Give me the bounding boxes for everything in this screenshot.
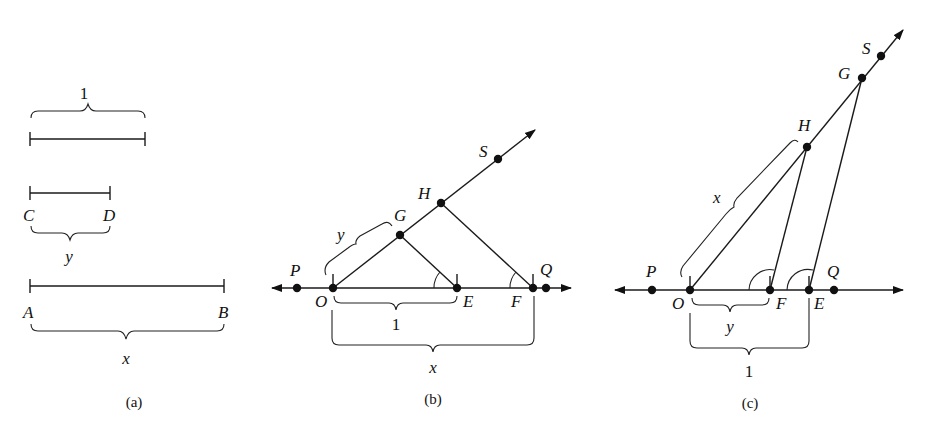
point-s <box>877 52 885 60</box>
unit-label: 1 <box>80 84 89 103</box>
point-s <box>494 155 502 163</box>
label-q: Q <box>540 260 552 279</box>
label-s: S <box>479 142 488 161</box>
unit-segment: 1 <box>30 84 145 146</box>
label-p: P <box>289 261 300 280</box>
ray-os <box>690 30 903 290</box>
geometry-figure: 1 C D y A B x (a) <box>0 0 926 436</box>
point-g <box>396 231 404 239</box>
label-f: F <box>775 294 787 313</box>
point-e <box>453 284 461 292</box>
point-h <box>437 199 445 207</box>
point-q <box>542 284 550 292</box>
label-1: 1 <box>392 315 401 334</box>
point-label-c: C <box>23 206 35 225</box>
point-h <box>803 143 811 151</box>
point-f <box>766 286 774 294</box>
point-f <box>529 284 537 292</box>
point-o <box>329 284 337 292</box>
y-label: y <box>63 247 73 266</box>
point-p <box>293 284 301 292</box>
label-o: O <box>315 292 327 311</box>
caption-c: (c) <box>742 395 759 412</box>
label-g: G <box>838 64 850 83</box>
brace-og <box>325 222 392 275</box>
label-h: H <box>417 184 432 203</box>
cd-brace <box>31 226 110 240</box>
brace-oe <box>690 341 809 355</box>
segment-ab: A B x <box>22 279 229 368</box>
panel-c: P O F E Q H G S x y 1 (c) <box>615 30 903 412</box>
label-e: E <box>813 294 825 313</box>
point-label-a: A <box>22 303 34 322</box>
label-y: y <box>335 225 345 244</box>
caption-a: (a) <box>126 394 143 411</box>
label-x: x <box>712 188 721 207</box>
point-e <box>805 286 813 294</box>
segment-hf <box>770 147 807 290</box>
point-p <box>648 286 656 294</box>
x-label: x <box>121 349 130 368</box>
label-s: S <box>862 39 871 58</box>
panel-a: 1 C D y A B x (a) <box>22 84 229 411</box>
brace-oh <box>681 140 798 277</box>
angle-mark-f <box>510 272 516 288</box>
angle-mark-e <box>434 272 440 288</box>
point-label-b: B <box>218 303 229 322</box>
label-q: Q <box>827 262 839 281</box>
label-1: 1 <box>745 362 754 381</box>
label-f: F <box>510 292 522 311</box>
caption-b: (b) <box>424 391 442 408</box>
brace-of <box>692 298 769 312</box>
label-x: x <box>428 358 437 377</box>
segment-hf <box>441 203 533 288</box>
point-label-d: D <box>102 206 116 225</box>
panel-b: P O E F Q G H S y 1 x (b) <box>272 130 571 408</box>
segment-cd: C D y <box>23 186 116 266</box>
label-h: H <box>797 116 812 135</box>
segment-ge <box>809 78 862 290</box>
point-q <box>830 286 838 294</box>
ab-brace <box>31 324 224 339</box>
ray-os <box>333 130 535 288</box>
point-g <box>858 74 866 82</box>
brace-of <box>332 338 534 352</box>
point-o <box>686 286 694 294</box>
label-o: O <box>672 294 684 313</box>
label-e: E <box>462 292 474 311</box>
segment-ge <box>400 235 457 288</box>
brace-oe <box>334 296 457 310</box>
label-g: G <box>394 206 406 225</box>
label-p: P <box>645 262 656 281</box>
unit-brace <box>31 104 145 118</box>
label-y: y <box>724 317 734 336</box>
